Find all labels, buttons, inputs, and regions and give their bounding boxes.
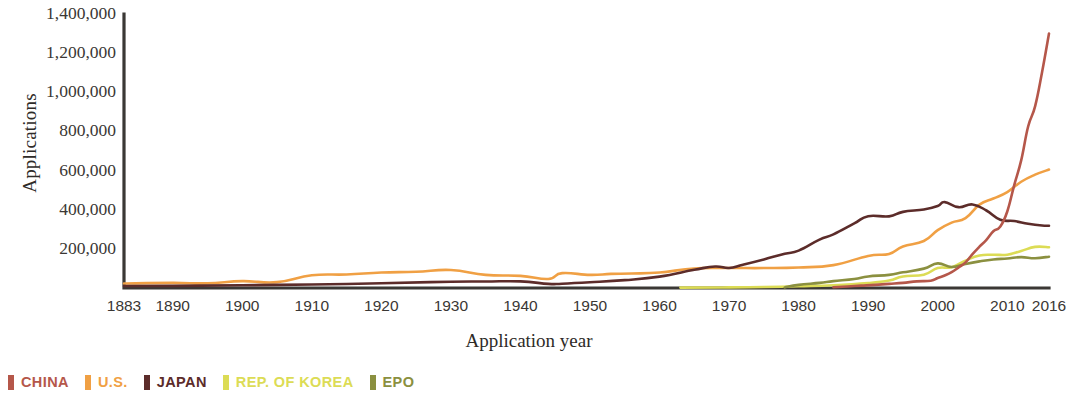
y-axis-tick-label: 1,000,000: [46, 83, 116, 101]
legend-swatch-icon: [85, 375, 91, 390]
legend-item: REP. OF KOREA: [223, 374, 354, 390]
series-line-epo: [785, 257, 1049, 288]
y-axis-tick-label: 400,000: [59, 201, 116, 219]
y-axis-tick-label: 1,200,000: [46, 44, 116, 62]
legend-item: U.S.: [85, 374, 128, 390]
axis-lines: [124, 14, 1049, 288]
x-axis-tick-label: 1960: [642, 297, 676, 315]
series-line-china: [833, 34, 1049, 288]
x-axis-tick-label: 1900: [225, 297, 259, 315]
legend-item-label: CHINA: [21, 374, 69, 390]
x-axis-tick-label: 2010: [990, 297, 1024, 315]
y-axis-tick-label: 200,000: [59, 240, 116, 258]
y-axis-tick-label: 800,000: [59, 122, 116, 140]
legend-item: CHINA: [8, 374, 69, 390]
legend-item-label: U.S.: [98, 374, 128, 390]
legend-swatch-icon: [8, 375, 14, 390]
chart-legend: CHINAU.S.JAPANREP. OF KOREAEPO: [8, 374, 430, 390]
series-line-u-s: [124, 170, 1049, 284]
y-axis-tick-label: 1,400,000: [46, 5, 116, 23]
y-axis-tick-labels: 1,400,0001,200,0001,000,000800,000600,00…: [0, 0, 116, 300]
x-axis-tick-label: 1970: [712, 297, 746, 315]
legend-swatch-icon: [144, 375, 150, 390]
x-axis-tick-label: 2000: [920, 297, 954, 315]
legend-swatch-icon: [370, 375, 376, 390]
legend-item: JAPAN: [144, 374, 207, 390]
legend-item-label: EPO: [383, 374, 415, 390]
x-axis-tick-label: 1890: [155, 297, 189, 315]
x-axis-tick-labels: 1883189019001910192019301940195019601970…: [0, 297, 1058, 321]
legend-item: EPO: [370, 374, 415, 390]
y-axis-tick-label: 600,000: [59, 162, 116, 180]
legend-item-label: JAPAN: [157, 374, 207, 390]
x-axis-tick-label: 1930: [434, 297, 468, 315]
legend-item-label: REP. OF KOREA: [236, 374, 354, 390]
x-axis-tick-label: 1883: [107, 297, 141, 315]
x-axis-tick-label: 2016: [1032, 297, 1066, 315]
x-axis-tick-label: 1990: [851, 297, 885, 315]
x-axis-tick-label: 1950: [573, 297, 607, 315]
x-axis-tick-label: 1910: [295, 297, 329, 315]
x-axis-tick-label: 1940: [503, 297, 537, 315]
x-axis-tick-label: 1920: [364, 297, 398, 315]
x-axis-tick-label: 1980: [781, 297, 815, 315]
x-axis-title: Application year: [0, 330, 1058, 352]
legend-swatch-icon: [223, 375, 229, 390]
